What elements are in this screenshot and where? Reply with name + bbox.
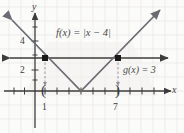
x-tick-label-7: 7 [113,102,118,112]
intersection-point-left [42,55,48,61]
x-tick-label-1: 1 [42,102,47,112]
absolute-value-graph-figure: f(x) = |x − 4| g(x) = 3 y x 4 2 1 7 ( ) [0,0,184,133]
x-axis-label: x [172,84,176,95]
y-axis-label: y [32,1,36,12]
y-tick-label-2: 2 [20,65,25,75]
f-function-label: f(x) = |x − 4| [54,27,113,40]
intersection-point-right [115,55,121,61]
g-function-label: g(x) = 3 [121,64,158,76]
interval-close-paren: ) [115,83,120,98]
y-tick-label-4: 4 [20,36,25,46]
interval-open-paren: ( [41,83,46,98]
